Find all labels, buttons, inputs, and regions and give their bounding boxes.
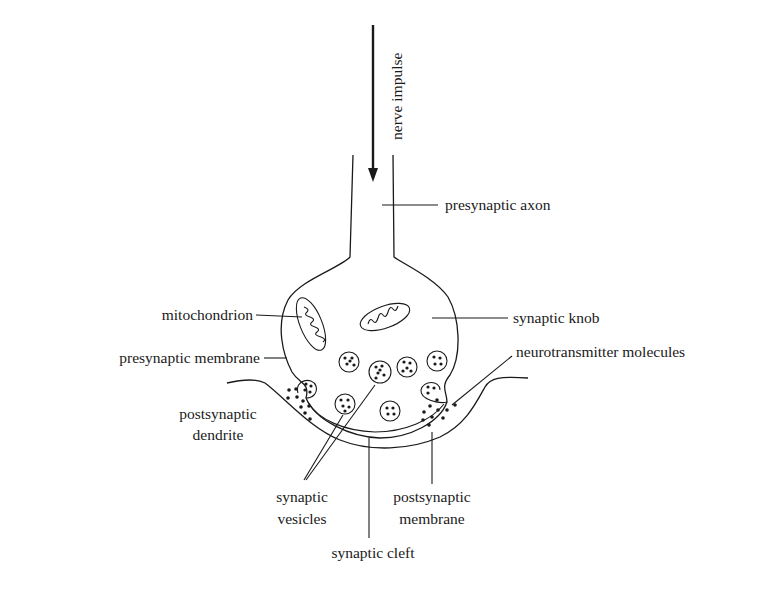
label-postsynaptic-membrane-2: membrane — [399, 510, 465, 527]
label-mitochondrion: mitochondrion — [162, 306, 254, 323]
mitochondrion-left — [290, 294, 331, 354]
label-synaptic-vesicles-1: synaptic — [276, 488, 328, 505]
label-synaptic-knob: synaptic knob — [513, 309, 600, 326]
label-neurotransmitter-molecules: neurotransmitter molecules — [516, 343, 685, 360]
label-synaptic-cleft: synaptic cleft — [331, 544, 415, 561]
synaptic-vesicle — [335, 394, 355, 414]
synaptic-vesicle — [339, 352, 359, 372]
synaptic-vesicle — [427, 351, 447, 371]
postsynaptic-membrane — [308, 402, 444, 432]
label-postsynaptic-dendrite-1: postsynaptic — [179, 405, 257, 422]
label-presynaptic-axon: presynaptic axon — [445, 196, 551, 213]
mitochondrion-right — [357, 298, 413, 336]
fusing-vesicle-right — [421, 383, 447, 403]
nerve-impulse-label: nerve impulse — [388, 53, 405, 140]
nerve-impulse-arrow — [368, 25, 378, 182]
synapse-diagram: nerve impulse — [0, 0, 772, 599]
label-presynaptic-membrane: presynaptic membrane — [119, 349, 260, 366]
label-synaptic-vesicles-2: vesicles — [277, 510, 326, 527]
synaptic-vesicle — [380, 401, 400, 421]
label-postsynaptic-dendrite-2: dendrite — [193, 426, 244, 443]
presynaptic-axon-outline — [281, 155, 458, 438]
synaptic-vesicle — [397, 357, 417, 377]
synaptic-vesicle — [369, 361, 391, 383]
label-postsynaptic-membrane-1: postsynaptic — [393, 488, 471, 505]
